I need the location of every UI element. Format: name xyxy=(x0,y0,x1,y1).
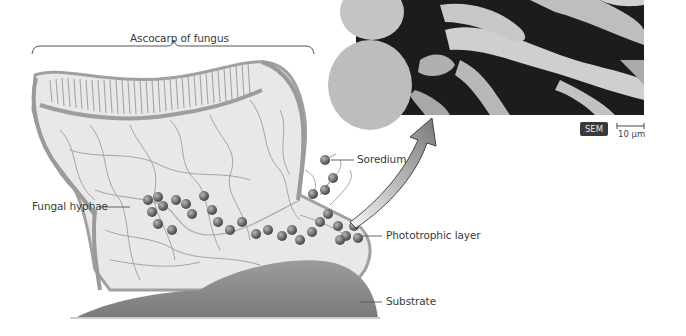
lichen-thallus xyxy=(33,62,370,290)
fungal-hyphae-label: Fungal hyphae xyxy=(32,200,108,212)
magnification-arrow xyxy=(350,118,436,228)
ascocarp-label: Ascocarp of fungus xyxy=(130,32,229,44)
lichen-diagram: Ascocarp of fungus Soredium Fungal hypha… xyxy=(0,0,686,336)
sem-micrograph xyxy=(328,0,644,130)
scale-bar-label: 10 µm xyxy=(618,129,645,139)
sem-badge: SEM xyxy=(580,122,608,136)
substrate-label: Substrate xyxy=(386,295,436,307)
soredium-label: Soredium xyxy=(357,153,406,165)
lichen-illustration xyxy=(0,0,686,336)
phototrophic-layer-label: Phototrophic layer xyxy=(386,229,480,241)
